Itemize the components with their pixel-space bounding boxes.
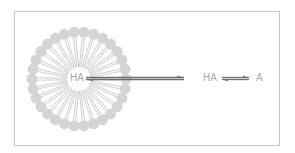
lipid-head [69,120,80,131]
lipid-head [31,93,42,104]
lipid-head [78,27,89,38]
lipid-head [59,29,70,40]
membrane-transport-arrow [86,76,184,81]
lipid-head [78,120,89,131]
outside-a-label: A [256,73,263,83]
lipid-head [119,83,130,94]
equilibrium-arrow [222,76,249,81]
outside-ha-label: HA [203,73,217,83]
lipid-head [119,64,130,75]
lipid-head [69,27,80,38]
lipid-head [88,118,99,129]
lipid-head [28,64,39,75]
lipid-head [116,54,127,65]
lipid-head [28,83,39,94]
micelle-ha-label: HA [70,73,84,83]
lipid-head [27,74,38,85]
micelle-diagram [0,0,295,153]
